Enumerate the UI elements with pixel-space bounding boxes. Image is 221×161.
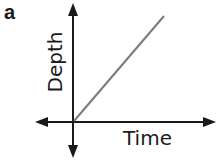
- y-axis-label: Depth: [45, 32, 65, 93]
- depth-line: [74, 16, 164, 121]
- depth-time-plot: [0, 0, 221, 161]
- y-axis-down-arrow-icon: [68, 145, 78, 158]
- y-axis-up-arrow-icon: [68, 3, 78, 16]
- x-axis-left-arrow-icon: [35, 117, 48, 127]
- x-axis-label: Time: [123, 128, 172, 148]
- x-axis-right-arrow-icon: [203, 117, 216, 127]
